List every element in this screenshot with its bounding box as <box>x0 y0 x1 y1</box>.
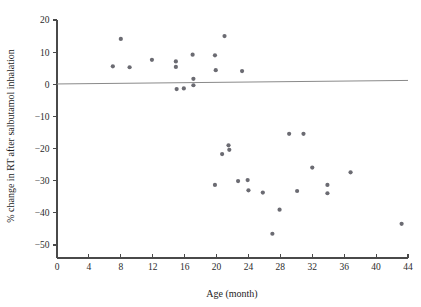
y-axis-title: % change in RT after salbutamol inhalati… <box>5 49 16 223</box>
y-tick-label: −50 <box>35 240 50 250</box>
data-point <box>301 132 305 136</box>
y-tick-label: −20 <box>35 144 50 154</box>
x-tick-label: 16 <box>180 262 190 272</box>
data-point <box>261 191 265 195</box>
y-tick-label: −40 <box>35 208 50 218</box>
data-point <box>174 65 178 69</box>
data-point <box>174 59 178 63</box>
data-point <box>246 188 250 192</box>
data-point <box>277 208 281 212</box>
axes <box>57 20 408 258</box>
tick-marks <box>53 20 409 258</box>
x-tick-label: 36 <box>339 262 349 272</box>
data-point <box>246 178 250 182</box>
data-points <box>111 34 404 236</box>
data-point <box>127 65 131 69</box>
x-tick-label: 12 <box>148 262 158 272</box>
data-point <box>111 64 115 68</box>
y-tick-label: 0 <box>45 80 50 90</box>
data-point <box>213 183 217 187</box>
y-tick-label: −10 <box>35 112 50 122</box>
x-tick-label: 24 <box>244 262 254 272</box>
y-tick-label: 10 <box>40 48 50 58</box>
data-point <box>175 87 179 91</box>
x-tick-label: 40 <box>371 262 381 272</box>
data-point <box>191 77 195 81</box>
data-point <box>182 86 186 90</box>
data-point <box>214 68 218 72</box>
data-point <box>310 165 314 169</box>
data-point <box>119 37 123 41</box>
data-point <box>295 189 299 193</box>
data-point <box>191 83 195 87</box>
data-point <box>227 148 231 152</box>
data-point <box>222 34 226 38</box>
data-point <box>213 53 217 57</box>
data-point <box>236 179 240 183</box>
data-point <box>400 222 404 226</box>
x-tick-label: 8 <box>118 262 123 272</box>
x-tick-label: 4 <box>87 262 92 272</box>
scatter-plot-figure: 048121620242832364044 20100−10−20−30−40−… <box>0 0 421 307</box>
x-tick-label: 20 <box>212 262 222 272</box>
x-tick-label: 32 <box>308 262 318 272</box>
data-point <box>325 191 329 195</box>
trend-line <box>57 80 408 84</box>
x-tick-label: 44 <box>403 262 413 272</box>
data-point <box>150 58 154 62</box>
data-point <box>220 152 224 156</box>
data-point <box>325 183 329 187</box>
data-point <box>226 143 230 147</box>
data-point <box>287 132 291 136</box>
data-point <box>240 69 244 73</box>
y-tick-label: −30 <box>35 176 50 186</box>
data-point <box>191 53 195 57</box>
x-tick-label: 0 <box>55 262 60 272</box>
chart-canvas: 048121620242832364044 20100−10−20−30−40−… <box>0 0 421 307</box>
data-point <box>348 170 352 174</box>
x-tick-label: 28 <box>276 262 286 272</box>
x-axis-title: Age (month) <box>206 288 257 300</box>
regression-line <box>57 80 408 84</box>
y-tick-label: 20 <box>40 15 50 25</box>
data-point <box>270 232 274 236</box>
y-axis-tick-labels: 20100−10−20−30−40−50 <box>35 15 50 250</box>
x-axis-tick-labels: 048121620242832364044 <box>55 262 413 272</box>
